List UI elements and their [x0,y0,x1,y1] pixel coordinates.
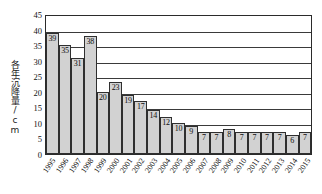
bar-value-label: 7 [215,134,219,142]
bar[interactable]: 7 [261,132,274,154]
bar-value-label: 7 [202,134,206,142]
y-axis-tick-label: 0 [38,151,42,160]
x-label-slot: 2003 [147,155,160,194]
bar-value-label: 6 [290,137,294,145]
bar-series: 39353138202319171412109778777767 [46,16,311,154]
bar-slot: 7 [273,16,286,154]
y-axis-tick-label: 25 [34,73,43,82]
x-label-slot: 1995 [45,155,58,194]
y-axis-tick-label: 40 [34,26,43,35]
bar-value-label: 7 [240,134,244,142]
bar-chart: 各年沉降量/cm 051015202530354045 393531382023… [0,0,322,194]
bar-slot: 10 [172,16,185,154]
x-label-slot: 1996 [58,155,71,194]
bar-value-label: 7 [252,134,256,142]
bar-slot: 31 [71,16,84,154]
bar[interactable]: 20 [97,92,110,154]
y-axis-tick-label: 35 [34,42,43,51]
x-label-slot: 1998 [83,155,96,194]
bar[interactable]: 39 [46,33,59,154]
bar[interactable]: 7 [273,132,286,154]
bar-value-label: 7 [265,134,269,142]
x-label-slot: 2010 [236,155,249,194]
bar[interactable]: 23 [109,82,122,154]
bar-value-label: 14 [150,112,158,120]
bar[interactable]: 19 [122,95,135,154]
x-label-slot: 2000 [109,155,122,194]
bar-value-label: 17 [137,103,145,111]
bar-value-label: 7 [278,134,282,142]
bar-slot: 39 [46,16,59,154]
bar-slot: 19 [122,16,135,154]
x-axis-tick-labels: 1995199619971998199920002001200220032004… [45,155,312,194]
y-axis-tick-label: 20 [34,89,43,98]
y-axis-tick-label: 10 [34,120,43,129]
y-axis-title: 各年沉降量/cm [8,44,22,150]
bar-slot: 9 [185,16,198,154]
bar[interactable]: 12 [160,117,173,154]
bar-value-label: 39 [49,35,57,43]
bar-slot: 20 [97,16,110,154]
bar-value-label: 10 [175,125,183,133]
bar-slot: 8 [223,16,236,154]
y-axis-tick-label: 15 [34,104,43,113]
x-label-slot: 2011 [248,155,261,194]
bar[interactable]: 7 [299,132,312,154]
bar-slot: 7 [210,16,223,154]
bar-value-label: 38 [86,38,94,46]
x-label-slot: 2001 [121,155,134,194]
bar-slot: 23 [109,16,122,154]
x-label-slot: 2002 [134,155,147,194]
bar[interactable]: 7 [210,132,223,154]
y-axis-tick-labels: 051015202530354045 [22,0,44,194]
bar-value-label: 19 [124,97,132,105]
bar-slot: 7 [198,16,211,154]
x-label-slot: 2014 [287,155,300,194]
bar-slot: 7 [261,16,274,154]
bar[interactable]: 35 [59,45,72,154]
bar-slot: 7 [235,16,248,154]
y-axis-tick-label: 30 [34,57,43,66]
y-axis-tick-label: 45 [34,11,43,20]
bar[interactable]: 31 [71,58,84,154]
bar-slot: 35 [59,16,72,154]
plot-area: 39353138202319171412109778777767 [45,15,312,155]
bar-value-label: 9 [189,128,193,136]
bar-slot: 14 [147,16,160,154]
y-axis-tick-label: 5 [38,135,42,144]
bar[interactable]: 9 [185,126,198,154]
bar-slot: 6 [286,16,299,154]
x-label-slot: 2007 [198,155,211,194]
bar-slot: 38 [84,16,97,154]
x-label-slot: 2012 [261,155,274,194]
x-label-slot: 1999 [96,155,109,194]
x-axis-tick-label: 2015 [296,157,312,175]
x-label-slot: 2008 [210,155,223,194]
bar-value-label: 20 [99,94,107,102]
bar[interactable]: 38 [84,36,97,154]
bar[interactable]: 6 [286,135,299,154]
bar-slot: 17 [134,16,147,154]
bar-value-label: 12 [162,119,170,127]
bar[interactable]: 17 [134,101,147,154]
bar-value-label: 23 [112,84,120,92]
bar[interactable]: 7 [248,132,261,154]
bar[interactable]: 10 [172,123,185,154]
bar-slot: 7 [248,16,261,154]
x-label-slot: 2015 [299,155,312,194]
bar-value-label: 7 [303,134,307,142]
bar[interactable]: 7 [235,132,248,154]
bar-value-label: 31 [74,60,82,68]
bar-slot: 12 [160,16,173,154]
x-label-slot: 2006 [185,155,198,194]
bar[interactable]: 7 [198,132,211,154]
x-label-slot: 1997 [70,155,83,194]
bar-value-label: 35 [61,47,69,55]
x-label-slot: 2005 [172,155,185,194]
bar-value-label: 8 [227,131,231,139]
bar-slot: 7 [299,16,312,154]
x-label-slot: 2004 [159,155,172,194]
x-label-slot: 2013 [274,155,287,194]
bar[interactable]: 14 [147,110,160,154]
bar[interactable]: 8 [223,129,236,154]
